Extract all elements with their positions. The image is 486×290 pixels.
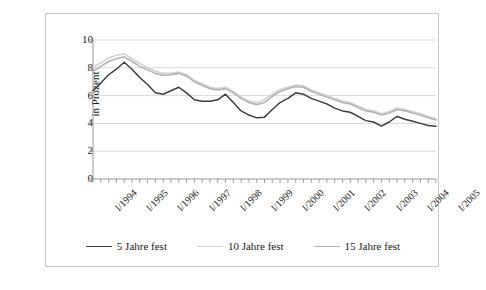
- chart-figure: 0246810 in Prozent I/1994I/1995I/1996I/1…: [0, 0, 486, 290]
- legend-item: 5 Jahre fest: [86, 240, 167, 252]
- x-tick-label: I/1999: [269, 187, 295, 213]
- x-tick-label: I/2001: [331, 187, 357, 213]
- legend-item: 15 Jahre fest: [314, 240, 401, 252]
- cropped-title-sliver: [0, 0, 486, 9]
- x-axis-tick-labels: I/1994I/1995I/1996I/1997I/1998I/1999I/20…: [46, 14, 440, 268]
- x-tick-label: I/2003: [393, 187, 419, 213]
- x-tick-label: I/1996: [175, 187, 201, 213]
- x-tick-label: I/1994: [113, 187, 139, 213]
- legend-swatch: [314, 246, 340, 247]
- x-tick-label: I/1997: [206, 187, 232, 213]
- legend-swatch: [86, 246, 112, 247]
- legend-swatch: [197, 246, 223, 247]
- legend-item: 10 Jahre fest: [197, 240, 284, 252]
- x-tick-label: I/2004: [424, 187, 450, 213]
- legend-label: 15 Jahre fest: [345, 240, 401, 252]
- legend-label: 10 Jahre fest: [228, 240, 284, 252]
- x-tick-label: I/1998: [237, 187, 263, 213]
- x-tick-label: I/1995: [144, 187, 170, 213]
- x-tick-label: I/2005: [456, 187, 482, 213]
- legend-label: 5 Jahre fest: [117, 240, 167, 252]
- chart-legend: 5 Jahre fest10 Jahre fest15 Jahre fest: [46, 240, 440, 252]
- x-tick-label: I/2002: [362, 187, 388, 213]
- chart-frame: 0246810 in Prozent I/1994I/1995I/1996I/1…: [45, 13, 439, 267]
- x-tick-label: I/2000: [300, 187, 326, 213]
